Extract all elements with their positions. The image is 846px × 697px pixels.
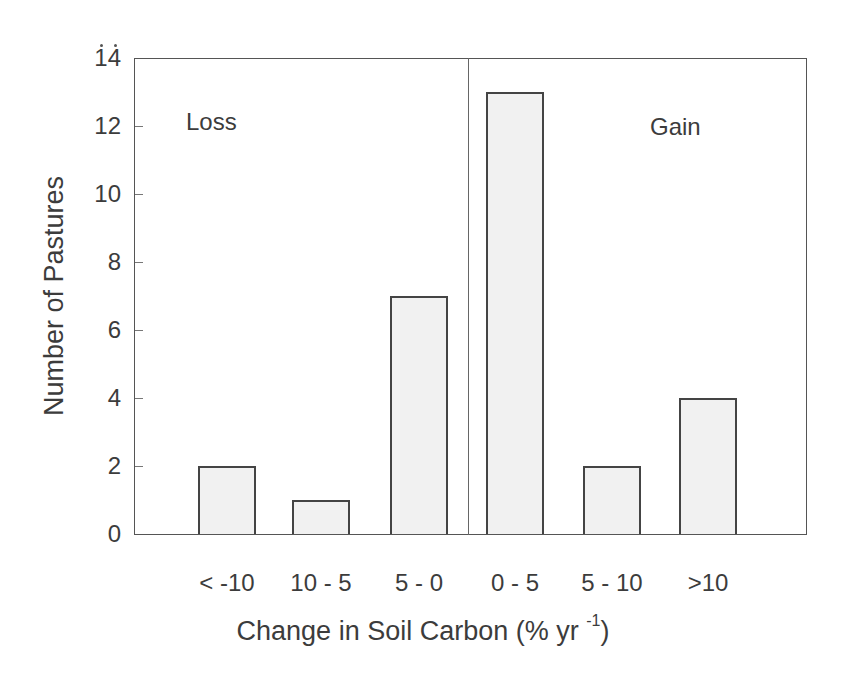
y-tick-label: 6 (81, 318, 121, 342)
y-tick-label: 10 (81, 182, 121, 206)
bar-0 (198, 466, 256, 534)
x-axis-title-end: ) (600, 616, 609, 646)
y-tick-mark (135, 398, 143, 399)
scan-artifact-dot (100, 44, 103, 47)
gain-label: Gain (650, 115, 701, 139)
x-axis-title-main: Change in Soil Carbon (% yr (237, 616, 587, 646)
bar-3 (486, 92, 544, 534)
x-tick-label: 0 - 5 (460, 571, 570, 595)
scan-artifact-dot (114, 44, 117, 47)
bar-4 (583, 466, 641, 534)
y-tick-label: 8 (81, 250, 121, 274)
bar-chart: 02468101214 < -1010 - 55 - 00 - 55 - 10>… (0, 0, 846, 697)
x-tick-label: 10 - 5 (266, 571, 376, 595)
y-tick-label: 2 (81, 454, 121, 478)
loss-gain-divider (468, 58, 469, 535)
x-axis-title: Change in Soil Carbon (% yr -1) (0, 616, 846, 647)
x-tick-label: 5 - 10 (557, 571, 667, 595)
y-tick-mark (135, 194, 143, 195)
y-tick-mark (135, 330, 143, 331)
bar-2 (390, 296, 448, 534)
y-tick-label: 12 (81, 114, 121, 138)
y-tick-mark (135, 262, 143, 263)
bar-5 (679, 398, 737, 534)
y-tick-label: 4 (81, 386, 121, 410)
x-tick-label: >10 (653, 571, 763, 595)
x-axis-title-exponent: -1 (586, 612, 600, 629)
bar-1 (292, 500, 350, 534)
x-tick-label: 5 - 0 (364, 571, 474, 595)
y-tick-label: 14 (81, 46, 121, 70)
y-tick-mark (135, 126, 143, 127)
y-tick-label: 0 (81, 522, 121, 546)
y-axis-title: Number of Pastures (39, 176, 70, 416)
y-tick-mark (135, 466, 143, 467)
loss-label: Loss (186, 110, 237, 134)
